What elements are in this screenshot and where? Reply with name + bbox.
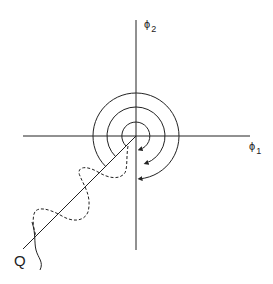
phi1-subscript: 1: [256, 146, 261, 156]
phi2-symbol: ϕ: [144, 18, 150, 30]
phase-space-diagram: ϕ2 ϕ1 Q: [0, 0, 273, 284]
phi1-symbol: ϕ: [249, 140, 255, 152]
phi1-axis-label: ϕ1: [249, 140, 260, 152]
phi2-axis-label: ϕ2: [144, 18, 155, 30]
q-label: Q: [14, 252, 26, 269]
phi2-subscript: 2: [151, 24, 156, 34]
solid-wave-tail: [32, 222, 41, 270]
radial-path-line: [23, 136, 136, 249]
